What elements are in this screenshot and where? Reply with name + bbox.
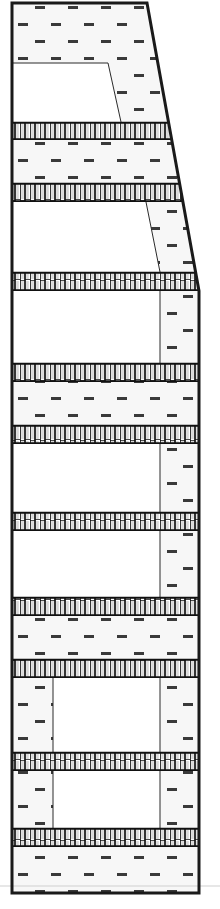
layer-L07-corrugated (0, 272, 220, 291)
layer-L13-corrugated (0, 512, 220, 531)
layer-L16-hatched (0, 616, 220, 659)
layer-L05-corrugated (0, 183, 220, 202)
cross-section-figure (0, 0, 220, 909)
layer-L12-plain-region (12, 444, 160, 512)
layer-L06-plain-region (12, 202, 160, 272)
layer-L11-corrugated (0, 425, 220, 444)
layer-L01-hatched (0, 3, 220, 63)
layer-L04-hatched (0, 140, 220, 183)
layer-L18-plain-region (53, 678, 160, 752)
layer-L09-corrugated (0, 363, 220, 382)
layer-L21-corrugated (0, 828, 220, 847)
layer-L08-plain-region (12, 291, 160, 363)
layer-L02-plain-region (12, 63, 121, 122)
layer-L19-corrugated (0, 752, 220, 771)
layer-L20-plain-region (53, 771, 160, 828)
cross-section-svg (0, 0, 220, 909)
layer-L10-hatched (0, 382, 220, 425)
layer-L14-plain-region (12, 531, 160, 597)
layer-L03-corrugated (0, 122, 220, 140)
layer-L15-corrugated (0, 597, 220, 616)
layer-stack (0, 3, 220, 893)
layer-L17-corrugated (0, 659, 220, 678)
